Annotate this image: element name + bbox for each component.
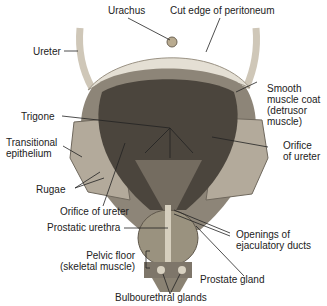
label-ureter: Ureter xyxy=(33,46,61,57)
label-orifice-of-ureter-right: Orifice of ureter xyxy=(283,140,320,162)
right-ureter xyxy=(246,28,257,88)
label-pelvic-floor: Pelvic floor (skeletal muscle) xyxy=(60,250,135,272)
label-cut-edge-of-peritoneum: Cut edge of peritoneum xyxy=(170,5,275,16)
bulbourethral-left xyxy=(157,266,165,274)
label-prostate-gland: Prostate gland xyxy=(200,274,265,285)
label-smooth-muscle-coat: Smooth muscle coat (detrusor muscle) xyxy=(267,83,320,127)
label-openings-of-ejaculatory-ducts: Openings of ejaculatory ducts xyxy=(236,229,311,251)
left-ureter xyxy=(80,28,93,88)
label-rugae: Rugae xyxy=(36,184,65,195)
label-prostatic-urethra: Prostatic urethra xyxy=(47,222,120,233)
label-orifice-of-ureter-left: Orifice of ureter xyxy=(60,206,129,217)
bulb xyxy=(152,278,188,292)
label-trigone: Trigone xyxy=(21,111,55,122)
label-transitional-epithelium: Transitional epithelium xyxy=(6,137,57,159)
urachus-stump xyxy=(167,37,177,47)
label-bulbourethral-glands: Bulbourethral glands xyxy=(115,292,207,303)
label-urachus: Urachus xyxy=(108,5,145,16)
bulbourethral-right xyxy=(178,266,186,274)
